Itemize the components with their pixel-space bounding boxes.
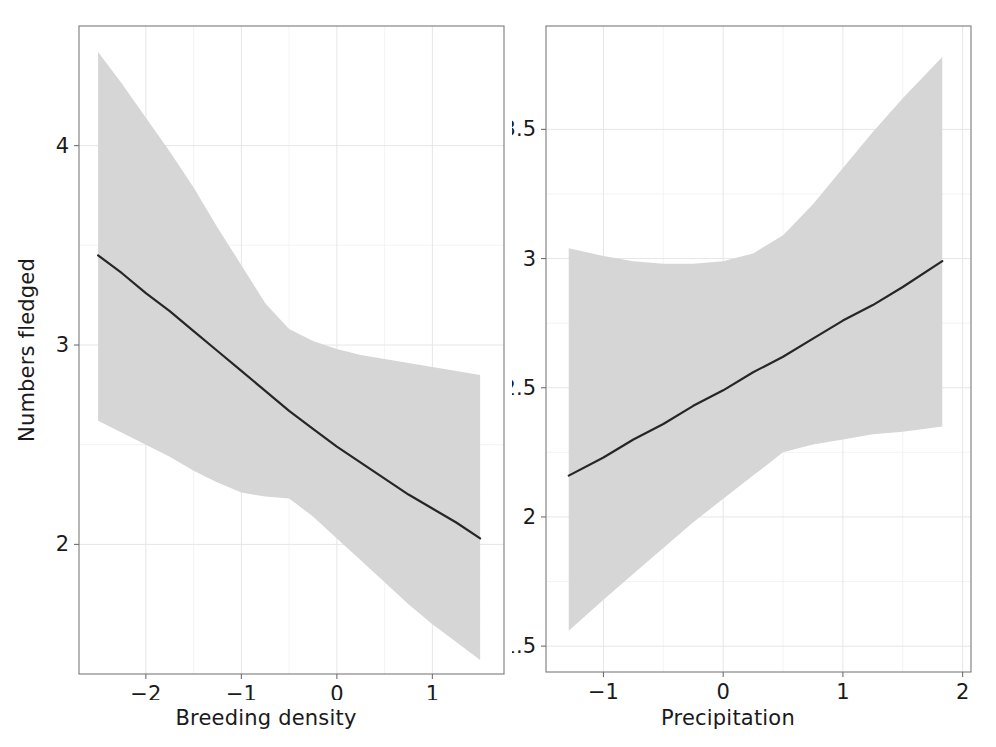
x-axis-label-precipitation: Precipitation xyxy=(486,706,970,730)
y-tick-label: 3 xyxy=(56,333,69,357)
figure-canvas: −2−101432 Numbers fledged Breeding densi… xyxy=(0,0,996,747)
x-tick-label: −1 xyxy=(226,682,257,700)
confidence-ribbon xyxy=(569,57,943,631)
x-axis-label-breeding-density: Breeding density xyxy=(10,706,522,730)
x-tick-label: 0 xyxy=(716,680,729,700)
y-axis-label: Numbers fledged xyxy=(15,258,39,442)
x-tick-label: 1 xyxy=(836,680,849,700)
y-tick-label: 3 xyxy=(523,247,536,271)
y-tick-label: 2.5 xyxy=(512,376,536,400)
x-tick-label: −2 xyxy=(130,682,161,700)
plot-left: −2−101432 xyxy=(0,0,512,700)
x-tick-label: 2 xyxy=(956,680,969,700)
y-axis-label-wrap: Numbers fledged xyxy=(10,0,44,700)
x-tick-label: 0 xyxy=(330,682,343,700)
y-tick-label: 1.5 xyxy=(512,634,536,658)
y-tick-label: 3.5 xyxy=(512,117,536,141)
x-tick-label: 1 xyxy=(426,682,439,700)
y-tick-label: 2 xyxy=(56,532,69,556)
y-tick-label: 4 xyxy=(56,134,69,158)
panel-breeding-density: −2−101432 Numbers fledged Breeding densi… xyxy=(0,0,512,747)
panel-precipitation: −10123.532.521.5 Precipitation xyxy=(512,0,996,747)
plot-right: −10123.532.521.5 xyxy=(512,0,996,700)
y-tick-label: 2 xyxy=(523,505,536,529)
x-tick-label: −1 xyxy=(588,680,619,700)
